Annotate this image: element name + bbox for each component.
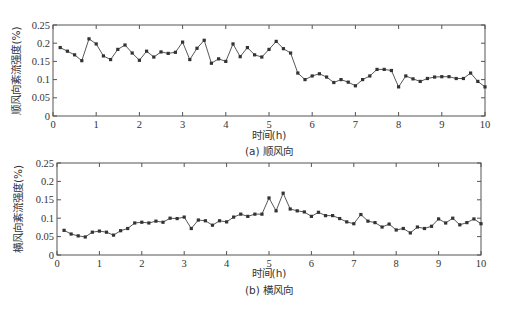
y-tick-label: 0.1 (37, 74, 50, 85)
data-point-marker (373, 221, 376, 224)
data-point-marker (402, 227, 405, 230)
data-point-marker (239, 55, 242, 58)
data-point-marker (77, 234, 80, 237)
data-point-marker (383, 68, 386, 71)
data-point-marker (140, 221, 143, 224)
figure-caption: (a) 顺风向 (245, 145, 293, 157)
data-point-marker (87, 37, 90, 40)
data-point-marker (395, 228, 398, 231)
x-tick-label: 10 (476, 258, 487, 269)
data-point-marker (317, 211, 320, 214)
data-point-marker (66, 50, 69, 53)
data-point-marker (80, 59, 83, 62)
data-point-marker (359, 213, 362, 216)
data-point-marker (397, 85, 400, 88)
data-point-marker (437, 217, 440, 220)
data-point-marker (409, 231, 412, 234)
data-point-marker (347, 81, 350, 84)
data-point-marker (416, 225, 419, 228)
data-point-marker (91, 231, 94, 234)
y-tick-label: 0.2 (37, 38, 50, 49)
data-point-marker (84, 235, 87, 238)
data-point-marker (133, 221, 136, 224)
data-point-marker (380, 225, 383, 228)
data-point-marker (204, 219, 207, 222)
data-point-marker (98, 229, 101, 232)
data-point-marker (338, 217, 341, 220)
x-tick-label: 0 (54, 258, 59, 269)
data-point-marker (267, 196, 270, 199)
data-point-marker (131, 51, 134, 54)
data-point-marker (310, 215, 313, 218)
data-point-marker (375, 68, 378, 71)
data-point-marker (303, 210, 306, 213)
y-tick-label: 0.1 (41, 213, 54, 224)
data-point-marker (447, 75, 450, 78)
data-point-marker (352, 222, 355, 225)
data-point-marker (253, 53, 256, 56)
x-tick-label: 0 (50, 119, 55, 130)
data-point-marker (339, 78, 342, 81)
y-tick-label: 0.05 (32, 92, 50, 103)
data-point-marker (145, 50, 148, 53)
data-point-marker (433, 75, 436, 78)
data-point-marker (109, 58, 112, 61)
data-point-marker (289, 51, 292, 54)
data-point-marker (282, 192, 285, 195)
x-axis-label: 时间(h) (252, 129, 287, 141)
data-point-marker (458, 223, 461, 226)
data-point-marker (332, 81, 335, 84)
data-point-marker (116, 48, 119, 51)
data-point-marker (231, 42, 234, 45)
figure: 01234567891000.050.10.150.20.25时间(h)(a) … (0, 0, 506, 311)
data-point-marker (203, 39, 206, 42)
data-point-marker (181, 41, 184, 44)
data-point-marker (404, 74, 407, 77)
x-tick-label: 2 (139, 258, 144, 269)
x-tick-label: 9 (436, 258, 441, 269)
data-point-marker (62, 229, 65, 232)
data-point-marker (105, 231, 108, 234)
x-tick-label: 4 (224, 258, 230, 269)
x-tick-label: 7 (353, 119, 358, 130)
x-tick-label: 6 (309, 258, 314, 269)
data-point-marker (296, 209, 299, 212)
data-point-marker (318, 72, 321, 75)
data-point-marker (430, 225, 433, 228)
data-point-marker (275, 40, 278, 43)
data-point-marker (183, 215, 186, 218)
data-point-marker (325, 75, 328, 78)
data-point-marker (311, 74, 314, 77)
data-point-marker (161, 221, 164, 224)
chart-panel-b: 01234567891000.050.10.150.20.25时间(h)(b) … (12, 158, 486, 297)
y-axis-label: 横风向紊流强度(%) (12, 165, 24, 253)
data-point-marker (232, 215, 235, 218)
data-point-marker (296, 71, 299, 74)
y-tick-label: 0.25 (32, 20, 50, 31)
data-point-marker (282, 47, 285, 50)
data-point-marker (479, 222, 482, 225)
x-tick-label: 8 (396, 119, 401, 130)
data-point-marker (112, 234, 115, 237)
data-point-marker (455, 77, 458, 80)
data-point-marker (465, 221, 468, 224)
plot-frame (57, 163, 481, 255)
data-point-marker (260, 213, 263, 216)
data-point-marker (147, 221, 150, 224)
data-point-marker (190, 227, 193, 230)
data-point-marker (354, 84, 357, 87)
x-tick-label: 6 (310, 119, 315, 130)
y-axis-label: 顺风向紊流强度(%) (10, 26, 22, 114)
data-point-marker (70, 232, 73, 235)
x-tick-label: 9 (439, 119, 444, 130)
data-point-marker (476, 80, 479, 83)
data-point-marker (152, 55, 155, 58)
data-point-marker (95, 42, 98, 45)
data-point-marker (303, 78, 306, 81)
data-point-marker (167, 52, 170, 55)
data-point-marker (267, 48, 270, 51)
plot-frame (53, 25, 485, 116)
data-point-marker (368, 74, 371, 77)
data-point-marker (159, 50, 162, 53)
data-point-marker (444, 221, 447, 224)
